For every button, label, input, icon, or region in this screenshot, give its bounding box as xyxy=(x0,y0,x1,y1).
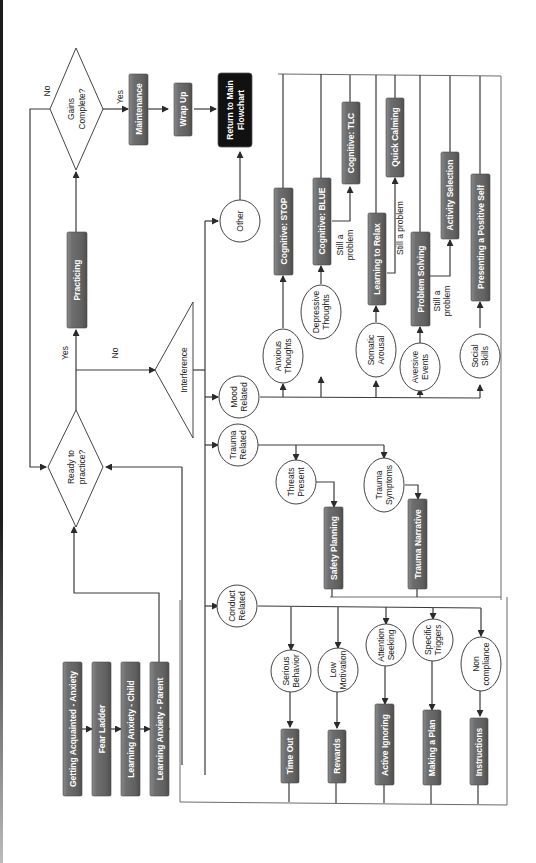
problem-label-line2: Thoughts xyxy=(321,294,331,329)
step-label: Wrap Up xyxy=(178,92,188,127)
problem-label-line1: Trauma xyxy=(374,470,384,499)
module-activity-selection[interactable]: Activity Selection xyxy=(441,152,459,239)
module-label: Quick Calming xyxy=(390,107,400,167)
problem-label-line1: Serious xyxy=(281,657,291,686)
module-active-ignoring[interactable]: Active Ignoring xyxy=(375,704,394,785)
problem-specific-triggers[interactable]: Specific Triggers xyxy=(413,619,453,661)
module-label: Rewards xyxy=(332,738,342,774)
category-label-line2: Related xyxy=(237,591,247,621)
module-learning-to-relax[interactable]: Learning to Relax xyxy=(368,213,386,305)
decision-ready-to-practice[interactable]: Ready to practice? xyxy=(48,410,103,527)
problem-label-line2: Skills xyxy=(480,346,490,366)
category-label: Other xyxy=(235,210,245,231)
step-wrap-up[interactable]: Wrap Up xyxy=(174,83,192,136)
intro-step-learning-anxiety-parent[interactable]: Learning Anxiety - Parent xyxy=(150,662,169,796)
module-label: Presenting a Positive Self xyxy=(476,185,486,289)
intro-step-getting-acquainted[interactable]: Getting Acquainted - Anxiety xyxy=(63,662,82,796)
problem-label-line2: compliance xyxy=(481,642,491,685)
module-instructions[interactable]: Instructions xyxy=(470,718,488,785)
step-maintenance[interactable]: Maintenance xyxy=(129,74,148,145)
category-conduct-related[interactable]: Conduct Related xyxy=(217,585,257,627)
module-cognitive-tlc[interactable]: Cognitive: TLC xyxy=(342,102,360,184)
interference-node[interactable]: Interference xyxy=(155,302,193,438)
problem-label-line1: Somatic xyxy=(366,334,376,365)
module-presenting-a-positive-self[interactable]: Presenting a Positive Self xyxy=(471,174,490,301)
return-to-main-flowchart[interactable]: Return to Main Flowchart xyxy=(218,73,252,147)
module-label: Safety Planning xyxy=(329,516,339,580)
problem-label-line1: Threats xyxy=(286,468,296,497)
problem-low-motivation[interactable]: Low Motivation xyxy=(318,648,358,692)
intro-step-label: Getting Acquainted - Anxiety xyxy=(68,671,78,787)
problem-label-line1: Social xyxy=(470,344,480,367)
gains-yes-label: Yes xyxy=(115,90,125,104)
module-cognitive-stop[interactable]: Cognitive: STOP xyxy=(274,188,293,275)
step-label: Practicing xyxy=(72,259,82,300)
still-a-problem-label: Still a xyxy=(432,290,442,311)
module-making-a-plan[interactable]: Making a Plan xyxy=(423,710,441,785)
category-label-line1: Mood xyxy=(229,386,239,408)
still-a-problem-label: Still a xyxy=(335,234,345,255)
module-rewards[interactable]: Rewards xyxy=(328,730,346,783)
problem-serious-behavior[interactable]: Serious Behavior xyxy=(271,650,311,692)
intro-step-fear-ladder[interactable]: Fear Ladder xyxy=(92,662,111,796)
module-label: Active Ignoring xyxy=(380,714,390,776)
still-a-problem-label: problem xyxy=(442,286,452,317)
problem-aversive-events[interactable]: Aversive Events xyxy=(400,343,440,391)
category-label-line1: Conduct xyxy=(227,590,237,622)
decision-gains-complete[interactable]: Gains Complete? xyxy=(50,48,103,170)
problem-attention-seeking[interactable]: Attention Seeking xyxy=(366,624,406,666)
problem-non-compliance[interactable]: Non compliance xyxy=(461,637,501,691)
module-problem-solving[interactable]: Problem Solving xyxy=(411,232,430,326)
problem-label-line2: Symptoms xyxy=(384,465,394,505)
category-other[interactable]: Other xyxy=(220,200,260,242)
problem-social-skills[interactable]: Social Skills xyxy=(460,334,500,378)
module-label: Problem Solving xyxy=(416,245,426,312)
still-a-problem-label: Still a problem xyxy=(395,201,405,255)
decision-label-line1: Ready to xyxy=(66,450,76,484)
flowchart: Getting Acquainted - Anxiety Fear Ladder… xyxy=(0,0,536,863)
problem-trauma-symptoms[interactable]: Trauma Symptoms xyxy=(364,458,404,512)
module-label: Making a Plan xyxy=(427,720,437,777)
problem-anxious-thoughts[interactable]: Anxious Thoughts xyxy=(263,329,303,383)
problem-depressive-thoughts[interactable]: Depressive Thoughts xyxy=(301,285,341,339)
problem-label-line1: Non xyxy=(471,656,481,672)
problem-label-line1: Specific xyxy=(423,624,433,655)
module-safety-planning[interactable]: Safety Planning xyxy=(324,507,343,589)
still-a-problem-label: problem xyxy=(345,230,355,261)
decision-label-line1: Gains xyxy=(66,98,76,120)
category-trauma-related[interactable]: Trauma Related xyxy=(218,424,258,466)
intro-step-learning-anxiety-child[interactable]: Learning Anxiety - Child xyxy=(121,662,140,796)
interference-label: Interference xyxy=(179,347,189,393)
module-label: Instructions xyxy=(474,727,484,776)
problem-label-line2: Triggers xyxy=(433,625,443,656)
module-trauma-narrative[interactable]: Trauma Narrative xyxy=(408,499,427,589)
return-label-line2: Flowchart xyxy=(236,90,246,130)
decision-label-line2: Complete? xyxy=(77,88,87,129)
step-practicing[interactable]: Practicing xyxy=(67,232,87,328)
problem-label-line2: Behavior xyxy=(291,654,301,688)
category-label-line2: Related xyxy=(238,430,248,460)
problem-label-line2: Thoughts xyxy=(283,338,293,373)
module-quick-calming[interactable]: Quick Calming xyxy=(386,98,404,177)
module-time-out[interactable]: Time Out xyxy=(281,729,299,783)
module-label: Cognitive: BLUE xyxy=(317,187,327,254)
intro-step-label: Fear Ladder xyxy=(97,704,107,753)
ready-no-label: No xyxy=(110,347,120,358)
problem-somatic-arousal[interactable]: Somatic Arousal xyxy=(356,323,396,377)
problem-label-line2: Present xyxy=(296,467,306,497)
module-label: Cognitive: TLC xyxy=(346,113,356,173)
decision-label-line2: practice? xyxy=(77,449,87,484)
step-label: Maintenance xyxy=(134,83,144,135)
ready-yes-label: Yes xyxy=(60,346,70,360)
problem-label-line2: Motivation xyxy=(338,650,348,689)
category-mood-related[interactable]: Mood Related xyxy=(219,376,259,418)
return-label-line1: Return to Main xyxy=(225,80,235,140)
problem-label-line1: Depressive xyxy=(311,290,321,333)
gains-no-label: No xyxy=(42,85,52,96)
problem-label-line1: Anxious xyxy=(273,341,283,371)
problem-threats-present[interactable]: Threats Present xyxy=(276,460,316,504)
module-label: Cognitive: STOP xyxy=(279,197,289,264)
module-label: Activity Selection xyxy=(445,160,455,231)
module-cognitive-blue[interactable]: Cognitive: BLUE xyxy=(313,178,331,265)
problem-label-line2: Seeking xyxy=(386,629,396,660)
